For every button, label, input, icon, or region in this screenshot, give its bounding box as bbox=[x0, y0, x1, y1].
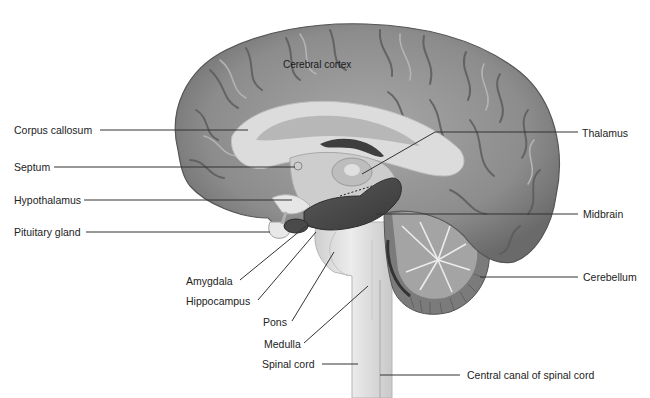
label-midbrain: Midbrain bbox=[583, 208, 623, 220]
label-hypothalamus: Hypothalamus bbox=[14, 194, 81, 206]
label-pons: Pons bbox=[263, 316, 287, 328]
brain-diagram: Cerebral cortex Corpus callosum Septum H… bbox=[0, 0, 650, 398]
leader-pons bbox=[292, 252, 334, 321]
brainstem bbox=[315, 222, 395, 398]
label-central-canal: Central canal of spinal cord bbox=[467, 369, 594, 381]
label-medulla: Medulla bbox=[264, 338, 301, 350]
label-cerebellum: Cerebellum bbox=[583, 271, 637, 283]
label-septum: Septum bbox=[14, 161, 50, 173]
label-cerebral-cortex: Cerebral cortex bbox=[283, 59, 351, 71]
label-hippocampus: Hippocampus bbox=[186, 295, 250, 307]
label-spinal-cord: Spinal cord bbox=[262, 358, 315, 370]
label-pituitary-gland: Pituitary gland bbox=[14, 226, 81, 238]
leader-hippocampus bbox=[258, 232, 316, 300]
label-corpus-callosum: Corpus callosum bbox=[14, 124, 92, 136]
label-amygdala: Amygdala bbox=[186, 275, 233, 287]
label-thalamus: Thalamus bbox=[582, 127, 628, 139]
